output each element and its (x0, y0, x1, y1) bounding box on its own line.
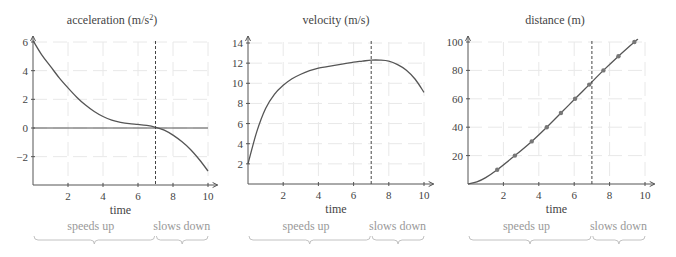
y-tick-label: 10 (232, 77, 244, 89)
x-tick-label: 2 (501, 189, 507, 201)
data-point-marker (587, 82, 591, 86)
speeds-up-label: speeds up (283, 219, 330, 233)
acceleration-curve (33, 41, 208, 171)
x-tick-label: 8 (386, 189, 392, 201)
speeds-up-brace (34, 236, 155, 244)
y-tick-label: 8 (238, 97, 244, 109)
x-axis-label: time (546, 202, 567, 216)
chart-title: distance (m) (525, 13, 585, 27)
x-tick-label: 2 (65, 190, 71, 202)
y-tick-label: 100 (447, 36, 464, 48)
y-tick-label: −2 (16, 151, 28, 163)
distance-curve (468, 39, 638, 184)
slows-down-label: slows down (369, 219, 426, 233)
data-point-marker (545, 125, 549, 129)
data-point-marker (559, 111, 563, 115)
distance-chart: 24681020406080100distance (m)timespeeds … (447, 13, 655, 244)
data-point-marker (632, 40, 636, 44)
grid (33, 42, 208, 185)
x-tick-label: 10 (203, 190, 215, 202)
x-tick-label: 2 (280, 189, 286, 201)
data-point-marker (530, 139, 534, 143)
y-tick-label: 80 (452, 64, 464, 76)
x-tick-label: 8 (170, 190, 176, 202)
x-axis-label: time (110, 203, 131, 217)
y-tick-label: 4 (23, 65, 29, 77)
x-tick-label: 6 (135, 190, 141, 202)
kinematics-figure: 246810−20246acceleration (m/s2)timespeed… (0, 0, 676, 257)
slows-down-brace (593, 236, 645, 244)
slows-down-label: slows down (590, 219, 647, 233)
x-tick-label: 4 (536, 189, 542, 201)
speeds-up-label: speeds up (503, 219, 550, 233)
x-tick-label: 6 (351, 189, 357, 201)
x-tick-label: 8 (607, 189, 613, 201)
y-tick-label: 40 (452, 121, 464, 133)
speeds-up-label: speeds up (67, 219, 114, 233)
acceleration-chart: 246810−20246acceleration (m/s2)timespeed… (16, 13, 217, 244)
velocity-chart: 2468102468101214velocity (m/s)timespeeds… (232, 13, 434, 244)
x-axis-label: time (325, 202, 346, 216)
y-tick-label: 12 (232, 57, 243, 69)
x-tick-label: 4 (100, 190, 106, 202)
y-tick-label: 2 (23, 93, 29, 105)
y-tick-label: 4 (238, 138, 244, 150)
x-tick-label: 6 (571, 189, 577, 201)
y-tick-label: 6 (238, 118, 244, 130)
slows-down-brace (372, 236, 424, 244)
data-point-marker (573, 97, 577, 101)
data-point-marker (601, 68, 605, 72)
data-point-marker (616, 54, 620, 58)
y-tick-label: 6 (23, 36, 29, 48)
grid (468, 42, 645, 184)
speeds-up-brace (469, 236, 591, 244)
data-point-marker (495, 168, 499, 172)
chart-title: acceleration (m/s2) (67, 13, 157, 27)
y-tick-label: 14 (232, 37, 244, 49)
speeds-up-brace (249, 236, 370, 244)
grid (248, 42, 424, 184)
slows-down-brace (156, 236, 208, 244)
chart-title: velocity (m/s) (303, 13, 370, 27)
data-point-marker (513, 153, 517, 157)
y-tick-label: 0 (23, 122, 29, 134)
y-tick-label: 20 (452, 150, 464, 162)
x-tick-label: 10 (640, 189, 652, 201)
y-tick-label: 60 (452, 93, 464, 105)
slows-down-label: slows down (153, 219, 210, 233)
x-tick-label: 4 (316, 189, 322, 201)
x-tick-label: 10 (419, 189, 431, 201)
velocity-curve (248, 60, 424, 164)
y-tick-label: 2 (238, 158, 244, 170)
